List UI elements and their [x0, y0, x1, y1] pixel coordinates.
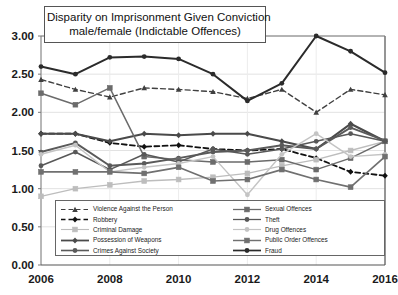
- y-axis-tick-label: 0.00: [12, 259, 34, 271]
- legend-label: Fraud: [265, 246, 282, 256]
- data-point-marker: [72, 217, 78, 223]
- legend-label: Criminal Damage: [93, 225, 142, 235]
- legend-item: Theft: [232, 214, 380, 224]
- y-axis-tick-label: 2.00: [12, 106, 34, 118]
- data-point-marker: [176, 177, 181, 182]
- data-point-marker: [314, 131, 319, 136]
- data-point-marker: [176, 57, 181, 62]
- legend-swatch-icon: [60, 246, 90, 255]
- data-point-marker: [107, 182, 112, 187]
- legend-item: Sexual Offences: [232, 204, 380, 214]
- data-point-marker: [279, 81, 284, 86]
- legend-swatch-icon: [60, 215, 90, 224]
- legend-item: Fraud: [232, 246, 380, 256]
- data-point-marker: [142, 165, 147, 170]
- x-axis-tick-label: 2008: [97, 273, 123, 285]
- x-axis-tick-label: 2006: [28, 273, 54, 285]
- chart-title-line-1: Disparity on Imprisonment Given Convicti…: [47, 10, 263, 24]
- legend-swatch-icon: [232, 215, 262, 224]
- data-point-marker: [314, 167, 319, 172]
- data-point-marker: [348, 131, 353, 136]
- data-point-marker: [73, 186, 78, 191]
- legend-item: Robbery: [60, 214, 232, 224]
- data-point-marker: [73, 102, 78, 107]
- data-point-marker: [383, 154, 388, 159]
- data-point-marker: [348, 125, 353, 130]
- chart-container: 0.000.501.001.502.002.503.00200620082010…: [0, 0, 398, 295]
- legend-swatch-icon: [232, 236, 262, 245]
- legend-label: Possession of Weapons: [93, 235, 161, 245]
- legend-item: Crimes Against Society: [60, 246, 232, 256]
- legend-swatch-icon: [60, 205, 90, 214]
- legend-swatch-icon: [60, 236, 90, 245]
- data-point-marker: [107, 55, 112, 60]
- y-axis-tick-label: 3.00: [12, 30, 34, 42]
- data-point-marker: [73, 169, 78, 174]
- data-point-marker: [211, 72, 216, 77]
- data-point-marker: [39, 169, 44, 174]
- legend-label: Robbery: [93, 215, 117, 225]
- data-point-marker: [314, 157, 319, 162]
- legend-item: Public Order Offences: [232, 235, 380, 245]
- x-axis-tick-label: 2014: [303, 273, 329, 285]
- legend-swatch-icon: [232, 205, 262, 214]
- data-point-marker: [245, 238, 250, 243]
- data-point-marker: [348, 185, 353, 190]
- data-point-marker: [245, 228, 250, 233]
- y-axis-tick-label: 1.50: [12, 145, 34, 157]
- y-axis-tick-label: 0.50: [12, 221, 34, 233]
- legend-swatch-icon: [232, 246, 262, 255]
- legend-swatch-icon: [60, 225, 90, 234]
- x-axis-tick-label: 2016: [372, 273, 398, 285]
- data-point-marker: [142, 152, 147, 157]
- data-point-marker: [73, 150, 78, 155]
- data-point-marker: [39, 194, 44, 199]
- legend-label: Public Order Offences: [265, 235, 328, 245]
- legend-item: Violence Against the Person: [60, 204, 232, 214]
- data-point-marker: [279, 147, 284, 152]
- legend-item: Criminal Damage: [60, 225, 232, 235]
- data-point-marker: [39, 91, 44, 96]
- y-axis-tick-label: 1.00: [12, 183, 34, 195]
- legend-label: Sexual Offences: [265, 204, 312, 214]
- data-point-marker: [245, 98, 250, 103]
- data-point-marker: [383, 139, 388, 144]
- data-point-marker: [39, 64, 44, 69]
- data-point-marker: [211, 147, 216, 152]
- y-axis-tick-label: 2.50: [12, 68, 34, 80]
- chart-title: Disparity on Imprisonment Given Convicti…: [44, 6, 266, 43]
- data-point-marker: [107, 169, 112, 174]
- data-point-marker: [279, 157, 284, 162]
- x-axis-tick-label: 2012: [235, 273, 261, 285]
- data-point-marker: [314, 147, 319, 152]
- data-point-marker: [73, 228, 78, 233]
- data-point-marker: [245, 217, 250, 222]
- data-point-marker: [245, 177, 250, 182]
- data-point-marker: [348, 148, 353, 153]
- legend-swatch-icon: [232, 225, 262, 234]
- data-point-marker: [279, 152, 284, 157]
- data-point-marker: [72, 237, 78, 243]
- data-point-marker: [245, 248, 250, 253]
- data-point-marker: [348, 154, 353, 159]
- chart-title-line-2: male/female (Indictable Offences): [47, 24, 263, 38]
- data-point-marker: [142, 179, 147, 184]
- data-point-marker: [348, 49, 353, 54]
- data-point-marker: [107, 86, 112, 91]
- data-point-marker: [211, 154, 216, 159]
- legend-item: Possession of Weapons: [60, 235, 232, 245]
- chart-legend: Violence Against the PersonSexual Offenc…: [55, 200, 385, 256]
- data-point-marker: [39, 163, 44, 168]
- data-point-marker: [314, 34, 319, 39]
- data-point-marker: [245, 207, 250, 212]
- legend-label: Drug Offences: [265, 225, 306, 235]
- legend-label: Violence Against the Person: [93, 204, 173, 214]
- legend-label: Theft: [265, 215, 280, 225]
- data-point-marker: [279, 167, 284, 172]
- data-point-marker: [73, 248, 78, 253]
- data-point-marker: [211, 179, 216, 184]
- legend-label: Crimes Against Society: [93, 246, 159, 256]
- data-point-marker: [142, 171, 147, 176]
- data-point-marker: [314, 177, 319, 182]
- data-point-marker: [39, 152, 44, 157]
